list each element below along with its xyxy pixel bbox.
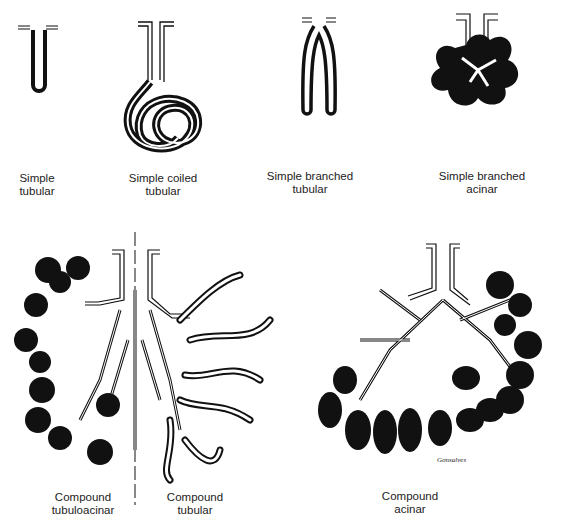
label-line: tubular (160, 504, 230, 517)
label-line: tubular (258, 183, 362, 196)
label-line: tubular (14, 185, 60, 198)
label-compound-tubular: Compound tubular (160, 491, 230, 517)
label-line: tubular (118, 185, 208, 198)
label-line: tubuloacinar (40, 504, 126, 517)
label-simple-tubular: Simple tubular (14, 172, 60, 198)
label-line: Simple branched (258, 170, 362, 183)
label-line: acinar (375, 503, 445, 516)
simple-branched-acinar-drawing (431, 14, 518, 106)
simple-coiled-tubular-drawing (128, 22, 199, 148)
gland-types-diagram (0, 0, 565, 527)
simple-tubular-drawing (18, 26, 58, 91)
label-compound-acinar: Compound acinar (375, 490, 445, 516)
simple-branched-tubular-drawing (302, 18, 336, 114)
label-line: Simple coiled (118, 172, 208, 185)
label-compound-tubuloacinar: Compound tubuloacinar (40, 491, 126, 517)
label-line: Simple (14, 172, 60, 185)
tubules-right (166, 275, 270, 480)
label-line: acinar (430, 183, 534, 196)
label-line: Compound (40, 491, 126, 504)
label-line: Compound (375, 490, 445, 503)
label-line: Simple branched (430, 170, 534, 183)
label-simple-branched-acinar: Simple branched acinar (430, 170, 534, 196)
label-simple-coiled-tubular: Simple coiled tubular (118, 172, 208, 198)
label-simple-branched-tubular: Simple branched tubular (258, 170, 362, 196)
label-line: Compound (160, 491, 230, 504)
artist-signature: Gonsalves (437, 456, 466, 464)
